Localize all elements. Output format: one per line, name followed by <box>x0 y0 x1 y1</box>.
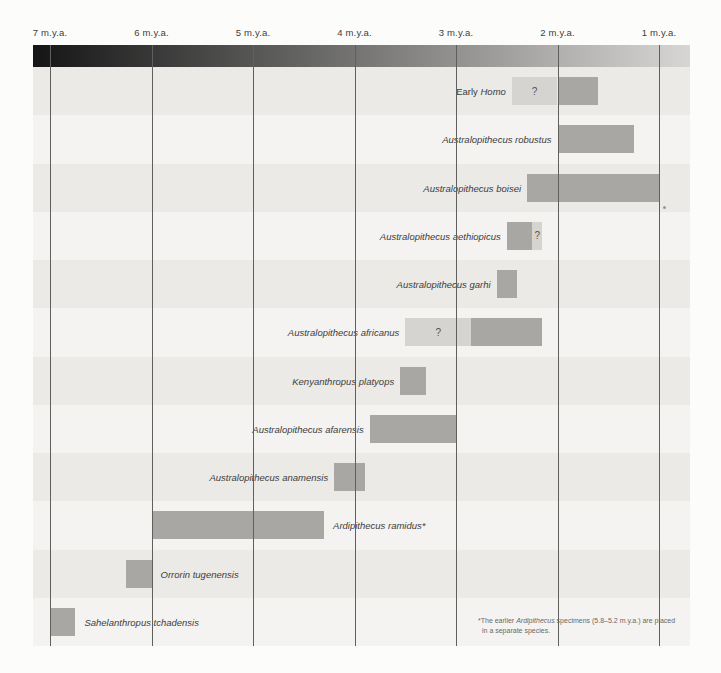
label-text-italic: Australopithecus anamensis <box>209 472 328 483</box>
uncertainty-question-mark: ? <box>534 230 540 241</box>
species-row: ?Australopithecus africanus <box>33 308 690 356</box>
species-row: Australopithecus anamensis <box>33 453 690 501</box>
species-row: Australopithecus afarensis <box>33 405 690 453</box>
axis-tick-label: 6 m.y.a. <box>134 27 169 38</box>
range-bar-solid <box>527 174 659 202</box>
species-label: Orrorin tugenensis <box>161 568 239 579</box>
species-row: Australopithecus boisei <box>33 164 690 212</box>
label-text: specimens (5.8–5.2 m.y.a.) are placed <box>555 617 675 624</box>
range-bar-solid <box>400 367 425 395</box>
plot-area: ?Early HomoAustralopithecus robustusAust… <box>33 67 690 646</box>
scan-artifact-dot <box>663 206 666 209</box>
species-label: Australopithecus africanus <box>288 327 399 338</box>
species-row: Orrorin tugenensis <box>33 550 690 598</box>
label-text-italic: Orrorin tugenensis <box>161 568 239 579</box>
species-label: Kenyanthropus platyops <box>292 375 394 386</box>
range-bar-solid <box>497 270 517 298</box>
range-bar-uncertain: ? <box>512 77 558 105</box>
label-text-italic: Australopithecus afarensis <box>252 423 363 434</box>
gridline <box>152 45 153 646</box>
gridline <box>355 45 356 646</box>
gridline <box>558 45 559 646</box>
range-bar-uncertain: ? <box>405 318 471 346</box>
species-row: Australopithecus garhi <box>33 260 690 308</box>
label-text-italic: Australopithecus garhi <box>397 279 491 290</box>
axis-tick-label: 3 m.y.a. <box>439 27 474 38</box>
species-row: Australopithecus robustus <box>33 115 690 163</box>
label-text-italic: Ardipithecus <box>516 617 555 624</box>
range-bar-solid <box>558 125 634 153</box>
species-row: ?Early Homo <box>33 67 690 115</box>
species-label: Early Homo <box>456 86 506 97</box>
range-bar-solid <box>507 222 532 250</box>
footnote-line-2: in a separate species. <box>478 626 713 636</box>
axis-tick-label: 4 m.y.a. <box>337 27 372 38</box>
range-bar-solid <box>558 77 599 105</box>
uncertainty-question-mark: ? <box>435 327 441 338</box>
gridline <box>456 45 457 646</box>
gridline <box>50 45 51 646</box>
range-bar-uncertain: ? <box>532 222 542 250</box>
gradient-timescale-bar <box>33 45 690 67</box>
range-bar-solid <box>50 608 75 636</box>
species-row: Kenyanthropus platyops <box>33 357 690 405</box>
label-text: *The earlier <box>478 617 516 624</box>
range-bar-solid <box>126 560 151 588</box>
species-label: Australopithecus garhi <box>397 279 491 290</box>
label-text-italic: Australopithecus africanus <box>288 327 399 338</box>
uncertainty-question-mark: ? <box>532 86 538 97</box>
species-label: Australopithecus afarensis <box>252 423 363 434</box>
label-text-italic: Australopithecus robustus <box>442 134 551 145</box>
gridline <box>253 45 254 646</box>
label-text-italic: Sahelanthropus tchadensis <box>84 616 199 627</box>
label-text-italic: Kenyanthropus platyops <box>292 375 394 386</box>
label-text-italic: Australopithecus boisei <box>423 182 521 193</box>
range-bar-solid <box>471 318 542 346</box>
axis-tick-label: 5 m.y.a. <box>236 27 271 38</box>
footnote-line-1: *The earlier Ardipithecus specimens (5.8… <box>478 616 713 626</box>
range-bar-solid <box>334 463 364 491</box>
species-label: Ardipithecus ramidus* <box>333 520 425 531</box>
axis-tick-label: 7 m.y.a. <box>33 27 68 38</box>
footnote: *The earlier Ardipithecus specimens (5.8… <box>478 616 713 636</box>
label-text-italic: Homo <box>480 86 505 97</box>
range-bar-solid <box>370 415 456 443</box>
label-text-italic: Ardipithecus ramidus* <box>333 520 425 531</box>
species-label: Australopithecus anamensis <box>209 472 328 483</box>
species-label: Australopithecus aethiopicus <box>380 230 501 241</box>
axis-tick-label: 1 m.y.a. <box>642 27 677 38</box>
axis-tick-label: 2 m.y.a. <box>540 27 575 38</box>
species-label: Sahelanthropus tchadensis <box>84 616 199 627</box>
species-label: Australopithecus boisei <box>423 182 521 193</box>
species-row: Ardipithecus ramidus* <box>33 501 690 549</box>
label-text-italic: Australopithecus aethiopicus <box>380 230 501 241</box>
species-label: Australopithecus robustus <box>442 134 551 145</box>
species-row: ?Australopithecus aethiopicus <box>33 212 690 260</box>
range-bar-solid <box>152 511 325 539</box>
gridline <box>659 45 660 646</box>
label-text: Early <box>456 86 480 97</box>
figure-hominin-timeline: 7 m.y.a.6 m.y.a.5 m.y.a.4 m.y.a.3 m.y.a.… <box>0 0 721 673</box>
